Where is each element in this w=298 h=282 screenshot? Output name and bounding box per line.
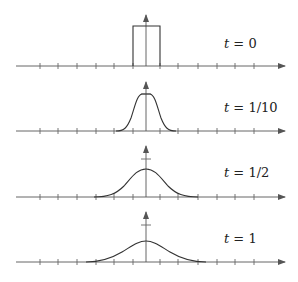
panel-t1-2: t = 1/2 [16,146,285,200]
panel-t1: t = 1 [16,212,285,265]
panel-t1-10: t = 1/10 [16,82,285,134]
box-function [133,26,160,66]
label-t1-10: t = 1/10 [224,100,278,115]
label-t0: t = 0 [224,36,257,51]
panel-t0: t = 0 [16,15,285,69]
label-t1-2: t = 1/2 [224,165,269,180]
label-t1: t = 1 [224,231,257,246]
diffusion-diagram: t = 0 t = 1/10 [0,0,298,282]
